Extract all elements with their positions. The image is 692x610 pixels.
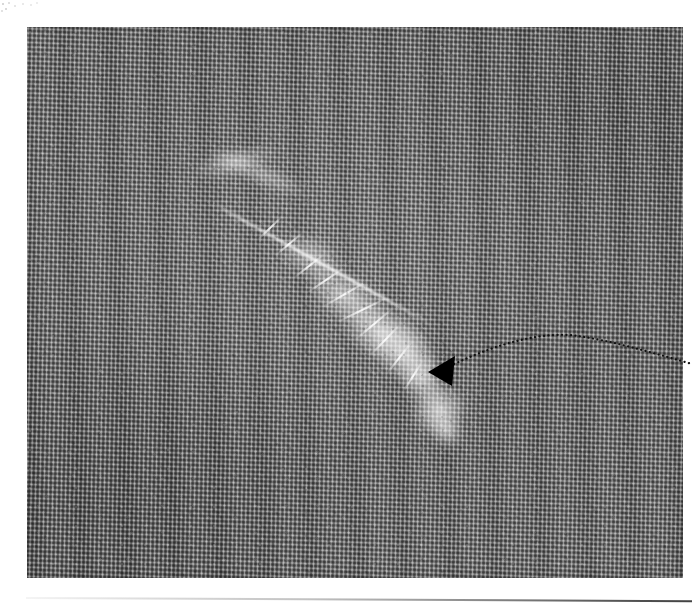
scan-page	[0, 0, 692, 610]
moire-banding	[27, 27, 683, 578]
scanner-edge-line	[26, 597, 692, 603]
hrtem-lattice-micrograph	[27, 27, 683, 578]
scanner-edge-line-stroke	[26, 597, 692, 602]
scan-noise-specks	[0, 0, 40, 16]
